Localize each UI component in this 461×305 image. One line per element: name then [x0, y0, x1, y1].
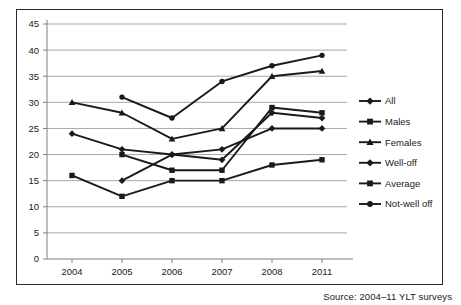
x-tick-label: 2005: [111, 266, 132, 277]
data-point-diamond: [119, 146, 126, 153]
series-line: [72, 128, 322, 154]
data-point-circle: [269, 63, 274, 68]
legend: AllMalesFemalesWell-offAverageNot-well o…: [359, 95, 433, 209]
data-point-square: [367, 181, 373, 187]
series-line: [72, 160, 322, 197]
legend-item-females[interactable]: Females: [359, 137, 422, 148]
legend-item-well-off[interactable]: Well-off: [359, 157, 417, 168]
data-point-diamond: [366, 97, 373, 104]
y-tick-label: 20: [28, 149, 39, 160]
line-chart: 0510152025303540452004200520062007200820…: [0, 0, 461, 305]
data-point-circle: [219, 79, 224, 84]
data-point-square: [169, 168, 174, 173]
data-point-square: [119, 194, 124, 199]
legend-label: All: [385, 95, 396, 106]
x-tick-label: 2008: [261, 266, 282, 277]
y-tick-label: 15: [28, 175, 39, 186]
data-series-group: [69, 53, 326, 199]
data-point-diamond: [69, 130, 76, 137]
y-tick-label: 35: [28, 71, 39, 82]
legend-item-males[interactable]: Males: [359, 116, 411, 127]
y-tick-label: 30: [28, 97, 39, 108]
axes: 0510152025303540452004200520062007200820…: [28, 18, 353, 277]
data-point-square: [319, 157, 324, 162]
data-point-square: [69, 173, 74, 178]
y-tick-label: 25: [28, 123, 39, 134]
legend-label: Not-well off: [385, 198, 433, 209]
data-point-square: [169, 178, 174, 183]
series-females: [69, 68, 326, 142]
data-point-square: [269, 105, 274, 110]
y-tick-label: 10: [28, 201, 39, 212]
source-note: Source: 2004–11 YLT surveys: [323, 291, 452, 302]
legend-item-not-well-off[interactable]: Not-well off: [359, 198, 433, 209]
data-point-diamond: [366, 159, 373, 166]
series-all: [69, 125, 326, 158]
chart-figure: 0510152025303540452004200520062007200820…: [0, 0, 461, 305]
data-point-circle: [169, 115, 174, 120]
legend-label: Males: [385, 116, 411, 127]
legend-item-all[interactable]: All: [359, 95, 396, 106]
chart-canvas: 0510152025303540452004200520062007200820…: [0, 0, 461, 305]
x-tick-label: 2007: [211, 266, 232, 277]
y-tick-label: 45: [28, 18, 39, 29]
data-point-circle: [119, 94, 124, 99]
data-point-square: [367, 119, 373, 125]
data-point-diamond: [319, 125, 326, 132]
x-tick-label: 2004: [61, 266, 82, 277]
data-point-diamond: [169, 151, 176, 158]
data-point-circle: [367, 201, 373, 207]
x-tick-label: 2011: [312, 266, 332, 277]
data-point-square: [119, 152, 124, 157]
data-point-diamond: [319, 115, 326, 122]
legend-label: Average: [385, 178, 420, 189]
x-tick-label: 2006: [161, 266, 182, 277]
y-tick-label: 5: [34, 227, 39, 238]
legend-label: Females: [385, 137, 422, 148]
legend-item-average[interactable]: Average: [359, 178, 420, 189]
y-tick-label: 40: [28, 45, 39, 56]
y-tick-label: 0: [34, 253, 39, 264]
data-point-circle: [319, 53, 324, 58]
data-point-diamond: [119, 177, 126, 184]
data-point-square: [219, 178, 224, 183]
data-point-square: [319, 110, 324, 115]
data-point-square: [219, 168, 224, 173]
series-males: [69, 157, 324, 199]
data-point-square: [269, 162, 274, 167]
series-line: [122, 55, 322, 118]
data-point-diamond: [219, 146, 226, 153]
legend-label: Well-off: [385, 157, 417, 168]
data-point-diamond: [269, 125, 276, 132]
